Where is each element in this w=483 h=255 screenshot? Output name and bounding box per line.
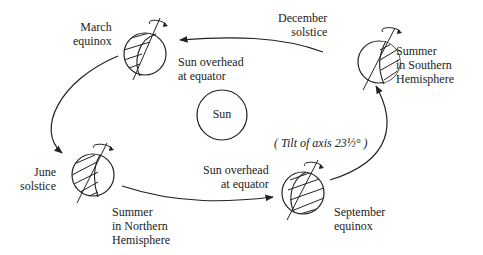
label-tilt-note: ( Tilt of axis 23½° ) [274, 136, 367, 150]
orbit-diagram: March equinox Sun overhead at equator De… [0, 0, 483, 255]
earth-june [72, 143, 114, 203]
label-september-equinox: September equinox [334, 205, 385, 233]
orbit-arrow-sep-to-dec [330, 86, 387, 180]
label-december-solstice: December solstice [278, 11, 327, 39]
label-march-equinox: March equinox [73, 20, 112, 48]
label-september-note: Sun overhead at equator [203, 163, 269, 191]
label-december-note: Summer in Southern Hemisphere [396, 44, 454, 86]
earth-september [282, 160, 324, 220]
label-sun: Sun [206, 107, 238, 121]
orbit-arrow-march-to-june [51, 56, 118, 153]
label-june-note: Summer in Northern Hemisphere [112, 205, 170, 247]
orbit-arrow-dec-to-march [180, 38, 323, 52]
label-march-note: Sun overhead at equator [178, 55, 244, 83]
earth-march [124, 18, 168, 80]
label-june-solstice: June solstice [20, 165, 56, 193]
